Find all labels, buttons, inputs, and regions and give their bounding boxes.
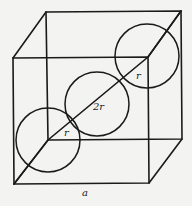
edge-bottom-right — [149, 139, 182, 183]
label-radius-top: r — [136, 70, 142, 81]
top-sphere — [115, 24, 179, 88]
label-edge-a: a — [82, 187, 88, 198]
edge-top-left — [13, 12, 46, 58]
label-diameter-middle: 2r — [92, 101, 105, 112]
cube-diagram: r 2r r a — [0, 0, 192, 206]
label-radius-bottom: r — [64, 127, 70, 138]
back-face — [46, 11, 182, 140]
body-diagonal — [14, 11, 181, 184]
